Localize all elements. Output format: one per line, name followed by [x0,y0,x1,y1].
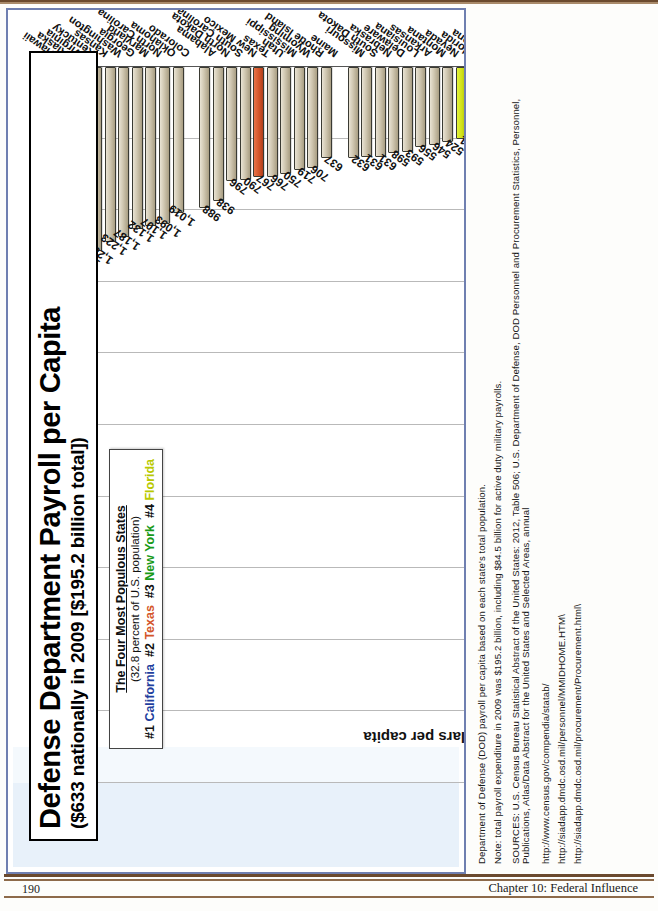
figure-source-url: http://www.census.gov/compendia/statab/ [540,684,551,864]
page-number: 190 [22,882,40,897]
bar [456,67,466,139]
bar [375,67,386,157]
bar [267,67,278,177]
y-axis-title: dollars per capita [326,729,467,746]
figure-note: Department of Defense (DOD) payroll per … [476,484,487,864]
bar [388,67,399,153]
legend-item-rank: #2 [143,640,157,657]
chart-title-block: Defense Department Payroll per Capita ($… [29,51,98,841]
figure-source-url: http://siadapp.dmdc.osd.mil/personnel/MM… [556,614,567,864]
bar [429,67,440,145]
scanned-book-page: 190 Chapter 10: Federal Influence 05001,… [0,0,658,911]
bar [307,67,318,168]
bar [159,67,170,224]
legend-item: #3 New York [143,525,157,598]
bar [361,67,372,157]
bar [442,67,453,142]
legend-item-rank: #1 [143,722,157,739]
bar [118,67,129,237]
bar [402,67,413,152]
bar [280,67,291,174]
bar [132,67,143,229]
rotated-chart-canvas: 05001,0001,5002,0002,5003,0003,5004,0004… [13,15,459,867]
running-head: Chapter 10: Federal Influence [488,881,638,896]
legend-item: #4 Florida [143,459,157,518]
legend: The Four Most Populous States (32.8 perc… [109,449,163,749]
bar [321,67,332,158]
bar [173,67,184,213]
figure-note: Note: total payroll expenditure in 2009 … [492,381,503,864]
bar [294,67,305,170]
chart-subtitle: ($633 nationally in 2009 [$195.2 billion… [67,63,89,829]
bar [348,67,359,158]
figure-notes-column: Department of Defense (DOD) payroll per … [470,8,658,874]
page-title: Defense Department Payroll per Capita [36,63,66,829]
figure-source-url: http://siadapp.dmdc.osd.mil/procurement/… [572,604,583,864]
bar [415,67,426,147]
bar [199,67,210,208]
page-footer-rule [4,896,654,898]
bar [105,67,116,242]
bar [226,67,237,181]
bar [213,67,224,201]
legend-item-rank: #4 [143,501,157,518]
legend-item-state: Texas [143,605,157,640]
legend-item: #1 California [143,664,157,739]
page-top-rule [0,0,658,4]
bar [253,67,264,177]
bar [145,67,156,226]
legend-item-state: California [143,664,157,722]
legend-title: The Four Most Populous States [114,459,128,739]
legend-items: #1 California #2 Texas #3 New York #4 Fl… [143,459,157,739]
legend-item-state: New York [143,525,157,581]
legend-item-state: Florida [143,459,157,501]
figure-source: Publications, Atlas/Data Abstract for th… [520,508,531,864]
legend-item: #2 Texas [143,605,157,657]
legend-note: (32.8 percent of U.S. population) [129,459,141,739]
figure-frame: 05001,0001,5002,0002,5003,0003,5004,0004… [6,8,466,874]
legend-item-rank: #3 [143,581,157,598]
bar [240,67,251,180]
page-bottom-rule-upper [4,874,654,877]
